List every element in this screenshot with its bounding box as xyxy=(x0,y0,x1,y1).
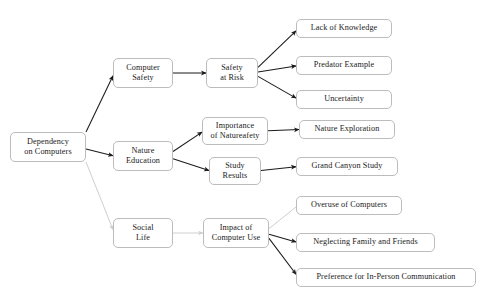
node-overuse: Overuse of Computers xyxy=(296,196,402,215)
edge-impact-to-neglect xyxy=(269,234,296,242)
node-comp_safety: Computer Safety xyxy=(113,58,173,88)
edge-safety_risk-to-lack xyxy=(258,31,296,68)
edge-nature_edu-to-importance xyxy=(173,132,202,151)
node-neglect: Neglecting Family and Friends xyxy=(296,233,435,252)
edge-root-to-comp_safety xyxy=(86,76,113,132)
node-nature_exp: Nature Exploration xyxy=(299,120,395,139)
edge-importance-to-nature_exp xyxy=(268,130,299,131)
node-preference: Preference for In-Person Communication xyxy=(296,268,476,287)
node-safety_risk: Safety at Risk xyxy=(206,58,258,88)
node-root: Dependency on Computers xyxy=(10,132,86,162)
edge-root-to-social xyxy=(86,162,113,230)
node-lack: Lack of Knowledge xyxy=(296,19,392,38)
edge-impact-to-preference xyxy=(269,238,296,274)
edge-safety_risk-to-uncertainty xyxy=(258,76,296,98)
edge-nature_edu-to-study xyxy=(173,159,209,171)
node-uncertainty: Uncertainty xyxy=(296,90,392,109)
node-grand: Grand Canyon Study xyxy=(296,157,398,176)
node-predator: Predator Example xyxy=(296,56,392,75)
edge-study-to-grand xyxy=(261,167,296,171)
edge-root-to-nature_edu xyxy=(86,149,113,156)
node-importance: Importance of Natureafety xyxy=(202,117,268,145)
node-social: Social Life xyxy=(113,218,173,248)
diagram-canvas: Dependency on ComputersComputer SafetySa… xyxy=(0,0,479,301)
edge-impact-to-overuse xyxy=(269,207,296,229)
node-nature_edu: Nature Education xyxy=(113,141,173,171)
node-study: Study Results xyxy=(209,157,261,185)
edge-safety_risk-to-predator xyxy=(258,66,296,72)
node-impact: Impact of Computer Use xyxy=(203,218,269,248)
